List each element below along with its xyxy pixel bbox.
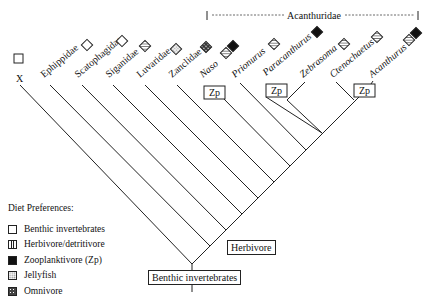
legend-label: Omnivore (24, 287, 63, 297)
legend-label: Jellyfish (24, 271, 56, 281)
zp-box-paracanthurus: Zp (266, 84, 287, 97)
zooplanktivore-swatch-icon (8, 256, 17, 265)
branch-siganidae (113, 85, 242, 214)
branch-zanclidae (177, 85, 274, 182)
zooplanktivore-icon (311, 26, 322, 37)
svg-text:Zp: Zp (271, 85, 282, 96)
legend-label: Herbivore/detritivore (24, 240, 105, 250)
taxon-label: X (16, 73, 24, 84)
svg-text:Zp: Zp (359, 85, 370, 96)
branch-luvaridae (145, 85, 258, 198)
main-spine (192, 96, 360, 264)
herbivore-icon (268, 38, 279, 49)
node-label-root: Benthic invertebrates (148, 270, 241, 285)
legend-title: Diet Preferences: (8, 204, 105, 214)
herbivore-icon (371, 31, 382, 42)
zp-box-acanthurus: Zp (354, 84, 375, 97)
node-label-herbivore: Herbivore (227, 240, 276, 255)
clade-label: Acanthuridae (287, 10, 341, 21)
legend-label: Benthic invertebrates (24, 225, 105, 235)
legend-label: Zooplanktivore (Zp) (24, 256, 102, 266)
taxon-label: Naso (196, 58, 220, 80)
benthic-icon (14, 54, 23, 63)
svg-text:Zp: Zp (209, 87, 220, 98)
legend: Diet Preferences: Benthic invertebrates … (8, 204, 105, 299)
herbivore-icon (139, 40, 150, 51)
benthic-swatch-icon (8, 225, 17, 234)
benthic-icon (81, 39, 92, 50)
legend-item: Omnivore (8, 284, 105, 299)
branch-ctenochaetus (336, 82, 354, 100)
zp-box-naso: Zp (204, 86, 225, 99)
branch-zebrasoma (287, 82, 305, 100)
jellyfish-icon (170, 43, 181, 54)
jellyfish-swatch-icon (8, 271, 17, 280)
herbivore-swatch-icon (8, 240, 17, 249)
legend-item: Herbivore/detritivore (8, 237, 105, 253)
branch-naso (222, 97, 290, 166)
legend-item: Benthic invertebrates (8, 222, 105, 238)
taxon-labels: X Ephippidae Scatophagidae Siganidae Luv… (16, 30, 409, 84)
herbivore-icon (338, 38, 349, 49)
legend-item: Zooplanktivore (Zp) (8, 253, 105, 269)
acanthuridae-bracket: Acanthuridae (207, 10, 418, 21)
taxon-label: Luvaridae (134, 45, 173, 80)
branch-paracanthurus (266, 97, 322, 133)
legend-item: Jellyfish (8, 268, 105, 284)
omnivore-icon (200, 41, 211, 52)
omnivore-swatch-icon (8, 287, 17, 296)
